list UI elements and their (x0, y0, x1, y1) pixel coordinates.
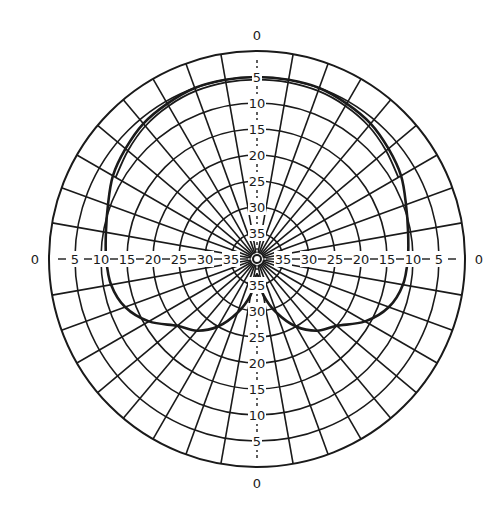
ring-label-bottom-20: 20 (249, 356, 266, 371)
ring-label-left-30: 30 (197, 252, 214, 267)
ring-label-top-5: 5 (253, 70, 261, 85)
ring-label-bottom-25: 25 (249, 330, 266, 345)
grid-radial-290 (62, 188, 252, 257)
ring-label-bottom-35: 35 (249, 278, 266, 293)
ring-label-top-20: 20 (249, 148, 266, 163)
ring-label-top-30: 30 (249, 200, 266, 215)
ring-label-right-35: 35 (275, 252, 292, 267)
label-right-0: 0 (475, 252, 483, 267)
ring-label-right-10: 10 (405, 252, 422, 267)
grid-radial-250 (62, 261, 252, 330)
ring-label-top-15: 15 (249, 122, 266, 137)
label-left-0: 0 (31, 252, 39, 267)
label-top-0: 0 (253, 28, 261, 43)
grid-radials (52, 54, 462, 464)
ring-label-left-15: 15 (119, 252, 136, 267)
ring-label-bottom-30: 30 (249, 304, 266, 319)
ring-label-bottom-15: 15 (249, 382, 266, 397)
ring-label-left-5: 5 (71, 252, 79, 267)
ring-label-right-5: 5 (435, 252, 443, 267)
ring-label-bottom-5: 5 (253, 434, 261, 449)
grid-radial-200 (186, 265, 255, 455)
label-bottom-0: 0 (253, 476, 261, 491)
polar-chart: 0000555510101010151515152020202025252525… (0, 0, 504, 518)
ring-label-top-25: 25 (249, 174, 266, 189)
grid-radial-340 (186, 64, 255, 254)
ring-label-right-25: 25 (327, 252, 344, 267)
grid-radial-20 (259, 64, 328, 254)
ring-label-left-10: 10 (93, 252, 110, 267)
ring-label-right-20: 20 (353, 252, 370, 267)
center-marker (253, 255, 261, 263)
grid-radial-160 (259, 265, 328, 455)
ring-label-top-10: 10 (249, 96, 266, 111)
grid-radial-70 (263, 188, 453, 257)
ring-label-left-25: 25 (171, 252, 188, 267)
ring-label-left-20: 20 (145, 252, 162, 267)
ring-label-top-35: 35 (249, 226, 266, 241)
ring-label-right-30: 30 (301, 252, 318, 267)
ring-label-bottom-10: 10 (249, 408, 266, 423)
grid-radial-110 (263, 261, 453, 330)
ring-label-left-35: 35 (223, 252, 240, 267)
ring-label-right-15: 15 (379, 252, 396, 267)
